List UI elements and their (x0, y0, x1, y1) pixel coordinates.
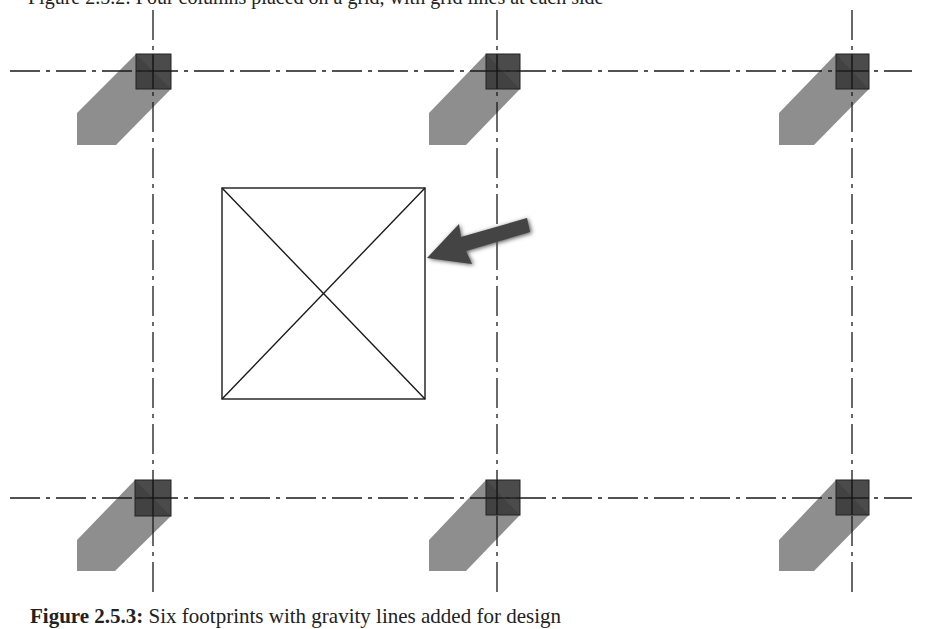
opening-box (222, 188, 425, 399)
column-shadows (77, 54, 869, 571)
arrow-icon (427, 218, 532, 265)
caption-text: Six footprints with gravity lines added … (143, 604, 561, 628)
caption-label: Figure 2.5.3: (30, 604, 143, 628)
figure-caption: Figure 2.5.3: Six footprints with gravit… (30, 604, 561, 629)
